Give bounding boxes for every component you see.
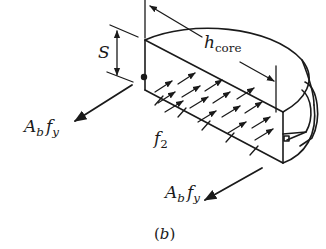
hcore-dim-line-lower <box>240 62 274 81</box>
bar-area-symbol: A <box>165 182 177 202</box>
hoop-bar-left-dot <box>142 75 147 80</box>
bar-area-subscript: b <box>36 125 44 139</box>
spacing-ext-line-top <box>110 25 138 37</box>
bar-force-label-left: Abfy <box>24 118 59 139</box>
spacing-label: S <box>98 44 110 61</box>
figure-caption-letter: b <box>160 225 170 243</box>
figure-caption: (b) <box>154 227 175 242</box>
yield-stress-subscript: y <box>193 191 200 205</box>
bar-area-symbol: A <box>24 116 36 136</box>
stress-label: f2 <box>154 130 168 151</box>
core-height-subscript: core <box>215 41 242 55</box>
confining-stress-arrows <box>155 73 273 140</box>
spacing-symbol: S <box>98 42 110 62</box>
bar-force-arrow-left <box>75 85 132 121</box>
bar-area-subscript: b <box>177 191 185 205</box>
confinement-free-body-diagram: S hcore f2 Abfy Abfy (b) <box>0 0 326 249</box>
bar-force-arrow-right <box>205 168 262 200</box>
spacing-ext-line-bottom <box>107 72 133 82</box>
yield-stress-subscript: y <box>52 125 59 139</box>
stress-subscript: 2 <box>160 137 168 151</box>
bottom-edge-ticks <box>155 96 258 155</box>
bar-force-label-right: Abfy <box>165 184 200 205</box>
core-height-label: hcore <box>204 34 242 55</box>
hoop-bar-end <box>284 136 289 141</box>
hcore-dim-line-upper <box>150 6 202 37</box>
core-height-symbol: h <box>204 32 215 52</box>
